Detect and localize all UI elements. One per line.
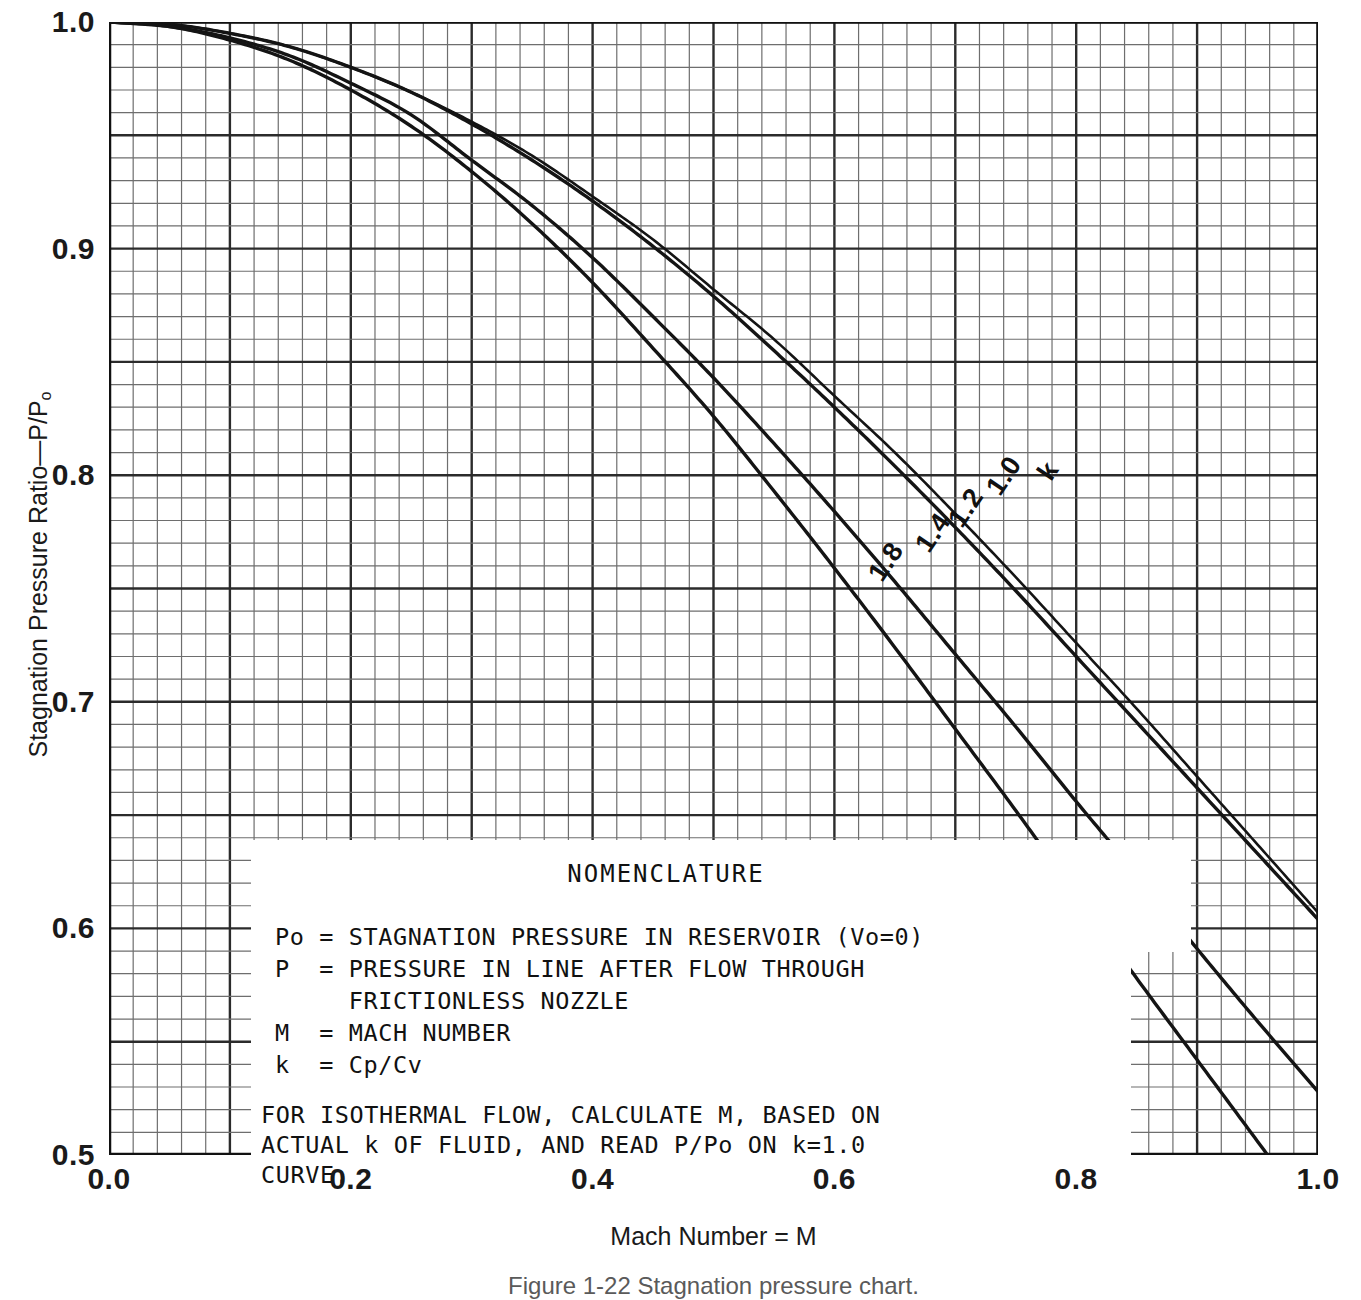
curve-k-1-2 <box>109 22 1318 919</box>
chart-plot-area: NOMENCLATURE Po = STAGNATION PRESSURE IN… <box>109 22 1318 1155</box>
nomenclature-note-line1: FOR ISOTHERMAL FLOW, CALCULATE M, BASED … <box>261 1104 880 1128</box>
x-tick-label: 0.2 <box>329 1162 372 1196</box>
x-tick-label: 0.6 <box>813 1162 856 1196</box>
nomenclature-row: FRICTIONLESS NOZZLE <box>275 990 629 1014</box>
nomenclature-box: NOMENCLATURE Po = STAGNATION PRESSURE IN… <box>251 840 1131 1170</box>
y-axis-title: Stagnation Pressure Ratio—P/Po <box>24 255 53 895</box>
x-tick-label: 0.0 <box>87 1162 130 1196</box>
nomenclature-note-line2: ACTUAL k OF FLUID, AND READ P/Po ON k=1.… <box>261 1134 866 1158</box>
curve-k-1-0 <box>109 22 1318 913</box>
y-axis-title-text: Stagnation Pressure Ratio—P/P <box>24 400 52 757</box>
nomenclature-title: NOMENCLATURE <box>251 862 1081 886</box>
x-tick-label: 1.0 <box>1296 1162 1339 1196</box>
nomenclature-row: Po = STAGNATION PRESSURE IN RESERVOIR (V… <box>275 926 924 950</box>
y-tick-label: 1.0 <box>9 5 95 39</box>
nomenclature-row: M = MACH NUMBER <box>275 1022 511 1046</box>
nomenclature-box-extension <box>1131 840 1191 952</box>
x-tick-label: 0.4 <box>571 1162 614 1196</box>
figure-caption: Figure 1-22 Stagnation pressure chart. <box>109 1272 1318 1300</box>
nomenclature-row: k = Cp/Cv <box>275 1054 422 1078</box>
y-tick-label: 0.5 <box>9 1138 95 1172</box>
y-tick-label: 0.6 <box>9 911 95 945</box>
y-axis-title-subscript: o <box>37 391 54 400</box>
x-tick-label: 0.8 <box>1055 1162 1098 1196</box>
nomenclature-row: P = PRESSURE IN LINE AFTER FLOW THROUGH <box>275 958 865 982</box>
nomenclature-text-block: NOMENCLATURE Po = STAGNATION PRESSURE IN… <box>251 840 1131 1170</box>
x-axis-tick-labels: 0.00.20.40.60.81.0 <box>109 1162 1318 1206</box>
x-axis-title: Mach Number = M <box>109 1222 1318 1251</box>
